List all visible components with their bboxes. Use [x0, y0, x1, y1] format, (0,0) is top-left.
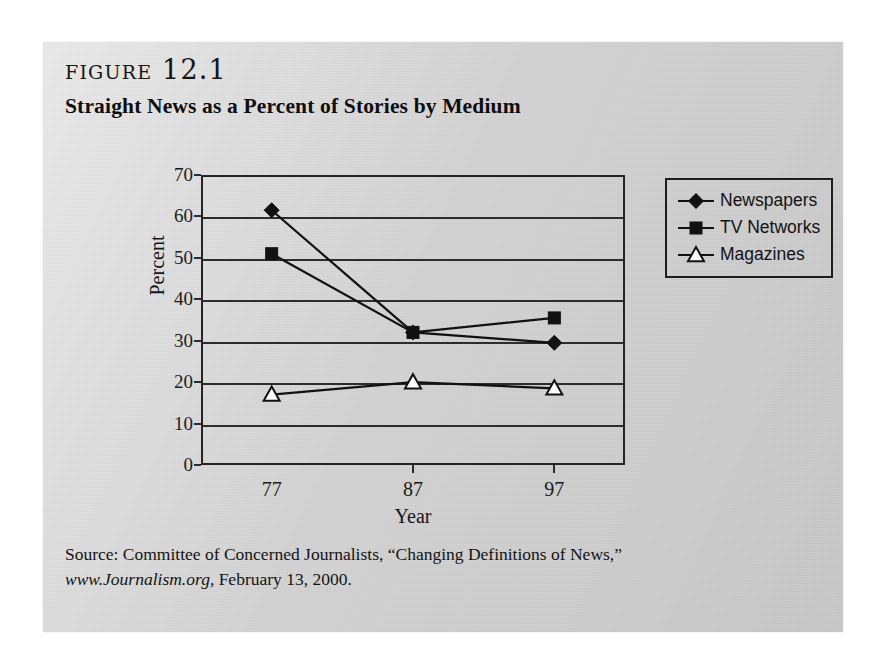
x-axis-tick-labels: 778797	[201, 478, 625, 504]
data-point-marker	[405, 374, 421, 388]
data-series-group	[201, 175, 625, 465]
source-note: Source: Committee of Concerned Journalis…	[65, 542, 805, 592]
x-tick-label: 77	[262, 478, 282, 501]
data-point-marker	[407, 326, 419, 338]
x-tick-label: 87	[403, 478, 423, 501]
source-url: www.Journalism.org,	[65, 569, 214, 589]
chart-legend: NewspapersTV NetworksMagazines	[665, 178, 833, 278]
x-tick-label: 97	[544, 478, 564, 501]
y-tick-mark	[194, 381, 201, 383]
legend-marker-open-triangle-icon	[676, 245, 716, 265]
source-line-2-rest: February 13, 2000.	[214, 569, 352, 589]
x-axis-tick-marks	[201, 465, 625, 473]
legend-label: Newspapers	[720, 190, 817, 211]
x-tick-mark	[412, 465, 414, 473]
x-axis-title: Year	[201, 505, 625, 528]
y-tick-mark	[194, 340, 201, 342]
y-tick-mark	[194, 423, 201, 425]
legend-item: Newspapers	[676, 187, 822, 214]
legend-marker-filled-diamond-icon	[676, 191, 716, 211]
y-tick-mark	[194, 174, 201, 176]
series-line	[272, 254, 555, 333]
source-line-1: Source: Committee of Concerned Journalis…	[65, 544, 622, 564]
data-point-marker	[266, 248, 278, 260]
y-tick-label: 0	[159, 454, 193, 476]
data-point-marker	[548, 312, 560, 324]
y-tick-label: 70	[159, 164, 193, 186]
legend-marker-filled-square-icon	[676, 218, 716, 238]
legend-label: Magazines	[720, 244, 805, 265]
data-point-marker	[547, 335, 562, 350]
y-tick-mark	[194, 464, 201, 466]
x-tick-mark	[553, 465, 555, 473]
y-tick-mark	[194, 215, 201, 217]
y-axis-title: Percent	[146, 196, 169, 336]
legend-label: TV Networks	[720, 217, 820, 238]
y-tick-mark	[194, 298, 201, 300]
legend-item: Magazines	[676, 241, 822, 268]
figure-panel: Figure 12.1 Straight News as a Percent o…	[43, 42, 843, 632]
y-tick-label: 20	[159, 371, 193, 393]
legend-item: TV Networks	[676, 214, 822, 241]
y-tick-mark	[194, 257, 201, 259]
y-tick-label: 10	[159, 413, 193, 435]
